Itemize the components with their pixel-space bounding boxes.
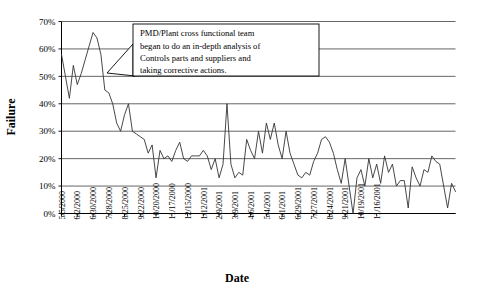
- x-tick-label: 4/6/2001: [247, 191, 256, 219]
- x-tick-label: 7/28/2000: [105, 187, 114, 219]
- callout-line-1: PMD/Plant cross functional team: [140, 28, 255, 38]
- x-tick-label: 6/30/2000: [89, 187, 98, 219]
- x-tick-label: 11/16/2001: [373, 183, 382, 219]
- x-tick-label: 9/21/2001: [341, 187, 350, 219]
- failure-rate-chart: 0%10%20%30%40%50%60%70% 5/5/20006/2/2000…: [0, 0, 479, 288]
- x-tick-label: 10/19/2001: [357, 183, 366, 219]
- x-tick-label: 7/27/2001: [310, 187, 319, 219]
- x-tick-label: 2/9/2001: [215, 191, 224, 219]
- x-tick-label: 6/29/2001: [294, 187, 303, 219]
- y-axis-title: Failure: [4, 98, 18, 136]
- y-tick-label: 40%: [39, 99, 56, 109]
- x-tick-label: 8/25/2000: [121, 187, 130, 219]
- x-tick-label: 9/22/2000: [137, 187, 146, 219]
- y-tick-label: 70%: [39, 17, 56, 27]
- x-tick-label: 5/5/2000: [58, 191, 67, 219]
- x-tick-label: 8/24/2001: [326, 187, 335, 219]
- x-tick-label: 1/12/2001: [200, 187, 209, 219]
- x-tick-label: 6/2/2000: [73, 191, 82, 219]
- x-tick-label: 5/4/2001: [263, 191, 272, 219]
- y-axis-tick-labels: 0%10%20%30%40%50%60%70%: [39, 17, 56, 219]
- callout-line-3: Controls parts and suppliers and: [140, 53, 251, 63]
- y-tick-label: 50%: [39, 72, 56, 82]
- y-tick-label: 10%: [39, 181, 56, 191]
- chart-plot-area: 0%10%20%30%40%50%60%70% 5/5/20006/2/2000…: [0, 0, 479, 288]
- y-tick-label: 20%: [39, 154, 56, 164]
- x-axis-tick-labels: 5/5/20006/2/20006/30/20007/28/20008/25/2…: [58, 183, 382, 219]
- callout-line-4: taking corrective actions.: [140, 65, 227, 75]
- x-axis-title: Date: [225, 271, 250, 285]
- x-tick-label: 6/1/2001: [278, 191, 287, 219]
- pmd-callout: PMD/Plant cross functional team began to…: [107, 24, 319, 76]
- y-tick-label: 60%: [39, 44, 56, 54]
- y-tick-label: 0%: [44, 209, 57, 219]
- x-tick-label: 3/9/2001: [231, 191, 240, 219]
- x-tick-label: 11/17/2000: [168, 183, 177, 219]
- callout-line-2: began to do an in-depth analysis of: [140, 41, 260, 51]
- y-tick-label: 30%: [39, 126, 56, 136]
- x-tick-label: 12/15/2000: [184, 183, 193, 219]
- x-tick-label: 10/20/2000: [152, 183, 161, 219]
